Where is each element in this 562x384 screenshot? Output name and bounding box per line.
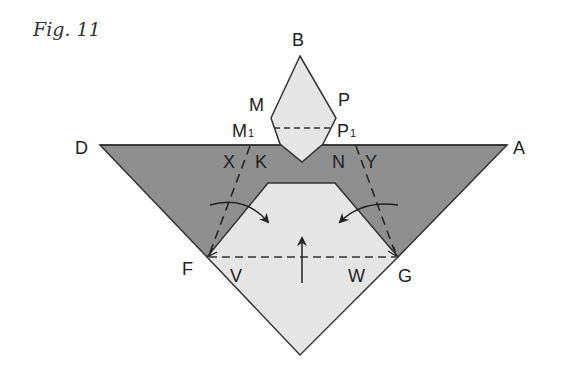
label-m1: M [232, 121, 247, 141]
label-g: G [398, 266, 412, 286]
label-v: V [230, 266, 242, 286]
label-f: F [182, 259, 193, 279]
label-d: D [75, 138, 88, 158]
label-p: P [338, 90, 350, 110]
label-k: K [255, 152, 267, 172]
label-x: X [223, 152, 235, 172]
label-p1: P [337, 121, 349, 141]
label-p1-subscript: 1 [350, 127, 356, 139]
label-m1-subscript: 1 [248, 127, 254, 139]
label-n: N [332, 152, 345, 172]
label-m: M [249, 95, 264, 115]
label-w: W [348, 266, 365, 286]
origami-diagram: B M P M 1 P 1 D A X K N Y F V W G [0, 0, 562, 384]
label-a: A [513, 138, 525, 158]
label-y: Y [365, 152, 377, 172]
label-b: B [292, 30, 304, 50]
